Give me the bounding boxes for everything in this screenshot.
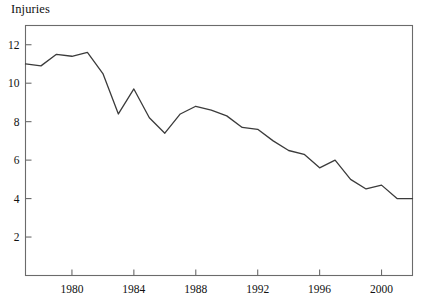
- x-tick-label: 1984: [122, 283, 145, 295]
- y-tick-label: 4: [14, 193, 20, 205]
- x-axis-tick-labels: 198019841988199219962000: [60, 283, 393, 295]
- y-axis-ticks: [26, 45, 32, 237]
- x-tick-label: 2000: [370, 283, 393, 295]
- y-tick-label: 2: [14, 231, 20, 243]
- x-tick-label: 1980: [60, 283, 83, 295]
- series-line-injuries: [26, 52, 413, 198]
- line-chart-plot: 24681012 198019841988199219962000: [0, 0, 427, 308]
- x-tick-label: 1996: [308, 283, 331, 295]
- y-tick-label: 12: [8, 39, 20, 51]
- x-axis-ticks: [72, 270, 382, 276]
- x-tick-label: 1992: [246, 283, 269, 295]
- chart-container: Injuries 24681012 1980198419881992199620…: [0, 0, 427, 308]
- x-tick-label: 1988: [184, 283, 207, 295]
- y-tick-label: 10: [8, 77, 20, 89]
- y-tick-label: 6: [14, 154, 20, 166]
- data-series-line: [26, 52, 413, 198]
- y-tick-label: 8: [14, 116, 20, 128]
- plot-frame: [26, 26, 413, 276]
- y-axis-tick-labels: 24681012: [8, 39, 20, 243]
